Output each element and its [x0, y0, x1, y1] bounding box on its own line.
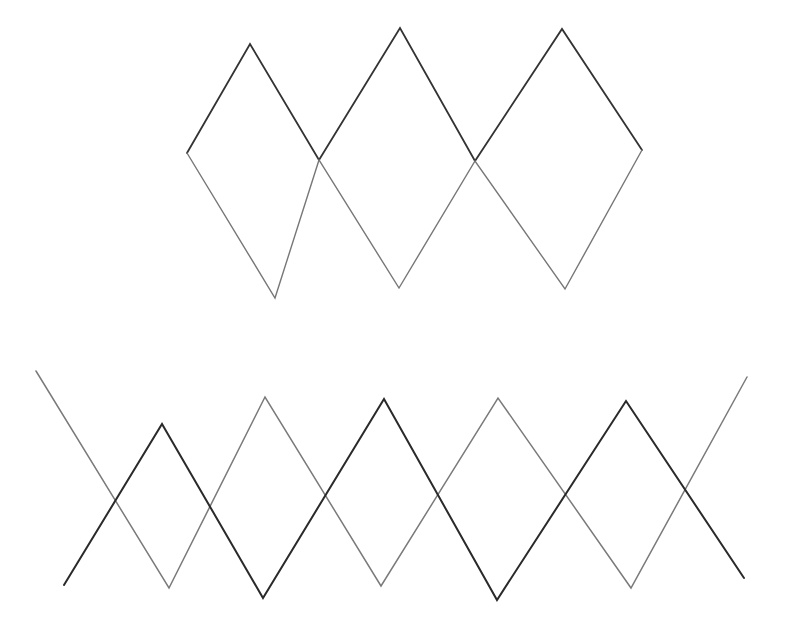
drawing-canvas: [0, 0, 790, 642]
bottom-interleaved-zigzags: [36, 371, 747, 600]
top-lower-zigzag: [187, 150, 642, 298]
bottom-gray-zigzag: [36, 371, 747, 588]
line-drawing: [0, 0, 790, 642]
bottom-dark-zigzag: [64, 399, 744, 600]
top-diamond-chain: [187, 28, 642, 298]
top-upper-zigzag: [187, 28, 642, 161]
